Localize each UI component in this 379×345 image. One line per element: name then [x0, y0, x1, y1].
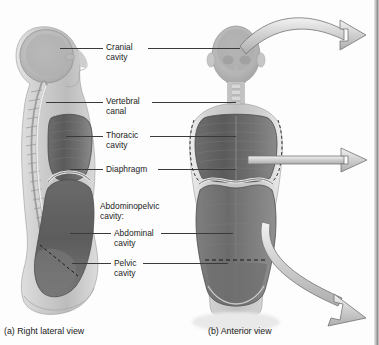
straight-arrow-right-icon: [248, 148, 367, 172]
body-cavities-figure: Cranial cavity Vertebral canal Thoracic …: [0, 0, 379, 345]
label-thoracic-cavity: Thoracic cavity: [106, 130, 138, 151]
label-cranial-cavity: Cranial cavity: [106, 42, 133, 63]
label-cranial-cavity-line2: cavity: [106, 52, 128, 62]
label-vertebral-canal-line2: canal: [106, 106, 126, 116]
caption-panel-a: (a) Right lateral view: [4, 326, 84, 336]
label-abdominal-cavity: Abdominal cavity: [114, 228, 154, 249]
page-edge-border: [374, 0, 379, 345]
label-abdominal-cavity-line2: cavity: [114, 238, 136, 248]
label-abdominopelvic-cavity: Abdominopelvic cavity:: [100, 201, 159, 222]
callout-arrows: [0, 0, 379, 345]
label-abdominal-cavity-line1: Abdominal: [114, 228, 154, 238]
label-thoracic-cavity-line2: cavity: [106, 140, 128, 150]
label-pelvic-cavity-line2: cavity: [114, 268, 136, 278]
label-abdominopelvic-line1: Abdominopelvic: [100, 201, 159, 211]
label-cranial-cavity-line1: Cranial: [106, 42, 133, 52]
label-diaphragm-text: Diaphragm: [106, 164, 147, 174]
label-diaphragm: Diaphragm: [106, 164, 147, 174]
caption-panel-b: (b) Anterior view: [208, 326, 272, 336]
label-vertebral-canal: Vertebral canal: [106, 96, 140, 117]
curved-arrow-down-right-icon: [261, 222, 366, 326]
label-pelvic-cavity-line1: Pelvic: [114, 258, 136, 268]
label-abdominopelvic-line2: cavity:: [100, 211, 124, 221]
label-vertebral-canal-line1: Vertebral: [106, 96, 140, 106]
curved-arrow-right-icon: [240, 18, 366, 54]
label-pelvic-cavity: Pelvic cavity: [114, 258, 136, 279]
label-thoracic-cavity-line1: Thoracic: [106, 130, 138, 140]
